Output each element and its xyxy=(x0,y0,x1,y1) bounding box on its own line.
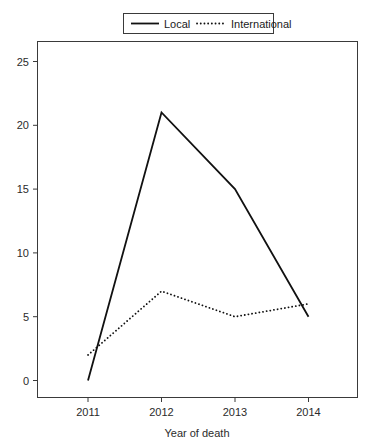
y-tick-label: 0 xyxy=(23,375,29,387)
y-tick-label: 10 xyxy=(17,247,29,259)
x-tick-label: 2014 xyxy=(296,406,320,418)
y-tick-label: 5 xyxy=(23,311,29,323)
x-tick-label: 2013 xyxy=(223,406,247,418)
y-tick-label: 15 xyxy=(17,183,29,195)
series-line-local xyxy=(88,113,309,381)
y-tick-label: 20 xyxy=(17,119,29,131)
series-line-international xyxy=(88,291,309,355)
chart-legend: Local International xyxy=(124,14,292,34)
line-chart: Local International 0 5 10 15 20 25 2011 xyxy=(0,0,376,448)
chart-container: Local International 0 5 10 15 20 25 2011 xyxy=(0,0,376,448)
x-tick-label: 2012 xyxy=(149,406,173,418)
legend-label-international: International xyxy=(231,18,292,30)
y-axis: 0 5 10 15 20 25 xyxy=(17,56,38,387)
x-axis-title: Year of death xyxy=(164,427,229,439)
series-group xyxy=(88,113,309,381)
plot-frame xyxy=(38,42,358,398)
x-axis: 2011 2012 2013 2014 Year of death xyxy=(76,398,321,440)
y-tick-label: 25 xyxy=(17,56,29,68)
x-tick-label: 2011 xyxy=(76,406,100,418)
legend-label-local: Local xyxy=(164,18,190,30)
